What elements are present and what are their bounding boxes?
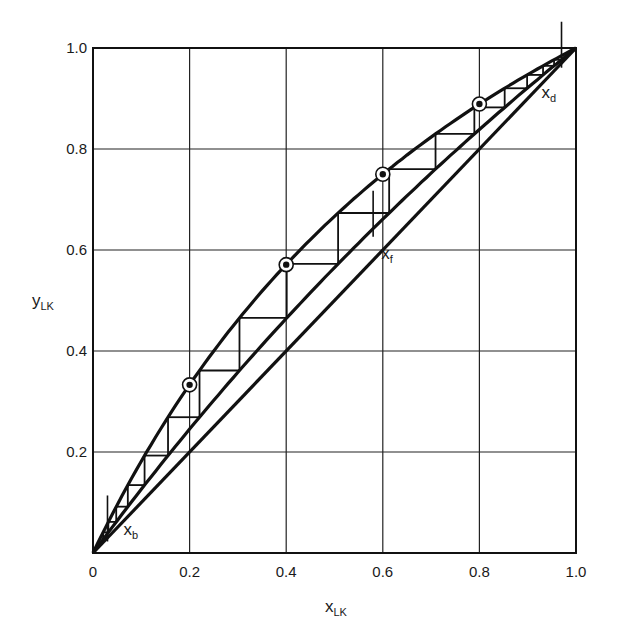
y-tick-label: 0.2 [66, 443, 87, 460]
x-tick-label: 0.2 [179, 563, 200, 580]
stage-steps [103, 60, 561, 540]
y-tick-label: 0.6 [66, 241, 87, 258]
x-tick-label: 0.4 [276, 563, 297, 580]
marked-point-dot [476, 101, 482, 107]
annotation-xd-label: xd [542, 83, 557, 104]
y-tick-label: 0.8 [66, 140, 87, 157]
marked-point-dot [283, 261, 289, 267]
mccabe-thiele-chart: xbxfxd 00.20.40.60.81.00.20.40.60.81.0 x… [0, 0, 619, 644]
annotation-xb-label: xb [123, 520, 138, 541]
x-tick-label: 1.0 [566, 563, 587, 580]
marked-points [183, 97, 487, 392]
y-axis-label: yLK [32, 291, 55, 312]
y-tick-label: 0.4 [66, 342, 87, 359]
diagonal-line [93, 48, 576, 553]
annotation-xf-label: xf [381, 244, 394, 265]
y-tick-label: 1.0 [66, 39, 87, 56]
x-tick-label: 0 [89, 563, 97, 580]
annotations: xbxfxd [107, 22, 561, 542]
curves [93, 48, 576, 553]
marked-point-dot [186, 382, 192, 388]
marked-point-dot [380, 171, 386, 177]
x-tick-label: 0.8 [469, 563, 490, 580]
x-axis-label: xLK [325, 597, 348, 618]
x-tick-label: 0.6 [372, 563, 393, 580]
